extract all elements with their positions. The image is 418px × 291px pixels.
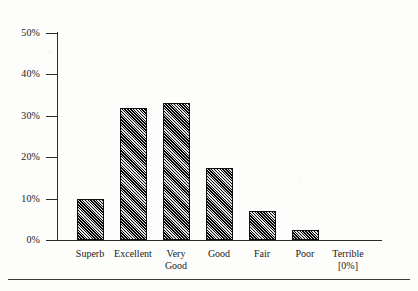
y-axis-tick-label-50: 50% [0, 28, 40, 38]
x-axis-label-fair-line1: Fair [254, 248, 270, 259]
plot-area [57, 33, 382, 240]
x-axis-label-terrible: Terrible [0%] [312, 248, 384, 271]
bar-fair [249, 211, 276, 240]
y-axis-tick-label-20: 20% [0, 152, 40, 162]
bar-good [206, 168, 233, 240]
bar-superb [77, 199, 104, 240]
y-axis-tick-label-0: 0% [0, 235, 40, 245]
bar-poor [292, 230, 319, 240]
x-axis-label-very-good-line2: Good [140, 260, 212, 272]
x-axis-label-terrible-line1: Terrible [332, 248, 364, 259]
y-axis-tick-label-10: 10% [0, 194, 40, 204]
bar-very-good [163, 103, 190, 240]
y-axis-tick-label-30: 30% [0, 111, 40, 121]
x-axis-line [46, 240, 382, 241]
bar-chart-figure: 50% 40% 30% 20% 10% 0% Superb Excellent … [0, 0, 418, 291]
bar-excellent [120, 108, 147, 240]
bottom-horizontal-rule [8, 279, 410, 280]
y-axis-tick-label-40: 40% [0, 69, 40, 79]
x-axis-label-terrible-annotation: [0%] [312, 260, 384, 272]
